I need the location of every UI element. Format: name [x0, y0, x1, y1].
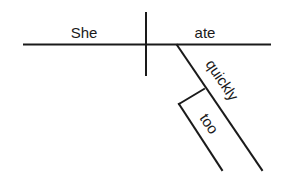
- modifier-word: too: [197, 110, 223, 137]
- modifier-line: [179, 104, 222, 170]
- modifier-connector: [179, 89, 204, 104]
- subject-word: She: [71, 24, 98, 41]
- sentence-diagram: She ate quickly too: [0, 0, 286, 175]
- verb-word: ate: [195, 24, 216, 41]
- adverb-word: quickly: [203, 56, 243, 104]
